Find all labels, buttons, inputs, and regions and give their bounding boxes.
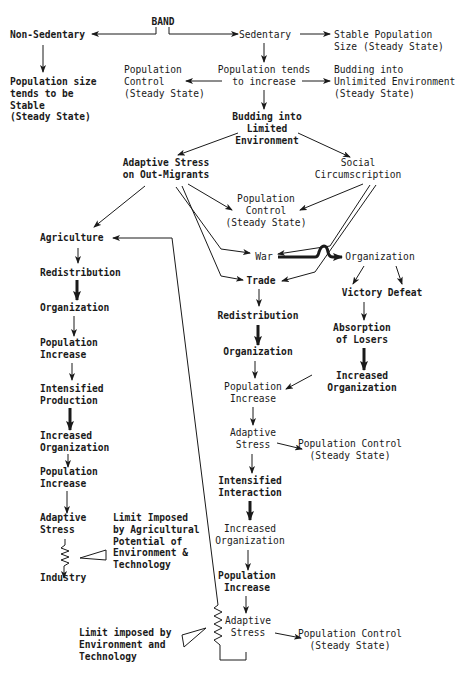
node-label-line: Redistribution xyxy=(218,310,299,321)
node-label-line: Social xyxy=(341,157,376,168)
node-label-line: Increased xyxy=(336,370,388,381)
node-label-line: Organization xyxy=(345,251,414,262)
edge-adaptive-control2 xyxy=(188,184,232,210)
node-label-line: tends to be xyxy=(10,88,74,99)
node-sedentary: Sedentary xyxy=(239,29,291,40)
node-label-line: Adaptive Stress xyxy=(123,157,210,168)
edge-adaptive-agri xyxy=(94,186,145,227)
node-label-line: Population xyxy=(124,64,182,75)
node-label-line: Sedentary xyxy=(239,29,291,40)
node-label-line: Organization xyxy=(223,346,293,357)
node-organization-l: Organization xyxy=(40,302,110,313)
node-label-line: Limit imposed by xyxy=(79,627,172,638)
node-label-line: Population xyxy=(40,337,98,348)
node-label-line: (Steady State) xyxy=(334,88,415,99)
node-label-line: Victory xyxy=(342,287,383,298)
edge-incorg-popinc xyxy=(286,375,312,389)
node-label-line: Population xyxy=(237,193,295,204)
node-pop-increase-l2: PopulationIncrease xyxy=(40,466,98,489)
node-label-line: Budding into xyxy=(232,111,302,122)
edge-limited-adaptive xyxy=(178,133,238,155)
edge-org-victory xyxy=(353,266,364,284)
node-label-line: (Steady State) xyxy=(310,640,391,651)
node-label-line: Stress xyxy=(231,627,266,638)
node-pop-increase-r1: PopulationIncrease xyxy=(224,381,282,404)
node-label-line: (Steady State) xyxy=(124,88,205,99)
node-label-line: Absorption xyxy=(333,322,391,333)
node-budding-limited: Budding intoLimitedEnvironment xyxy=(232,111,302,146)
node-label-line: Stress xyxy=(236,439,271,450)
node-adaptive-stress-l: AdaptiveStress xyxy=(40,512,86,535)
node-label-line: Stable xyxy=(10,100,45,111)
edge-feedback-agriculture xyxy=(113,238,246,660)
node-label-line: Increased xyxy=(224,523,276,534)
node-defeat: Defeat xyxy=(388,287,423,298)
node-label-line: (Steady State) xyxy=(226,217,307,228)
node-trade: Trade xyxy=(247,275,276,286)
node-label-line: Limited xyxy=(247,123,288,134)
node-industry: Industry xyxy=(40,572,86,583)
node-absorption: Absorptionof Losers xyxy=(333,322,391,345)
node-label-line: Population xyxy=(40,466,98,477)
flow-diagram: BANDNon-SedentaryPopulation sizetends to… xyxy=(0,0,468,673)
node-label-line: Production xyxy=(40,395,98,406)
edge-band-nonsedentary xyxy=(92,27,156,34)
node-label-line: Organization xyxy=(40,442,110,453)
node-pop-increase-r2: PopulationIncrease xyxy=(218,570,276,593)
node-label-line: Organization xyxy=(215,535,284,546)
node-label-line: Organization xyxy=(327,382,397,393)
node-label-line: Interaction xyxy=(218,487,282,498)
edge-social-trade xyxy=(282,185,376,281)
node-pop-stable: Population sizetends to beStable(Steady … xyxy=(10,76,97,122)
node-label-line: Increase xyxy=(230,393,276,404)
node-increased-org-l: IncreasedOrganization xyxy=(40,430,110,453)
node-pop-control-2: PopulationControl(Steady State) xyxy=(226,193,307,228)
node-increased-org-r: IncreasedOrganization xyxy=(215,523,284,546)
node-pop-control-3: Population Control(Steady State) xyxy=(298,438,402,461)
node-label-line: Population tends xyxy=(218,64,310,75)
zigzag-resistor-bottom xyxy=(214,605,222,645)
node-label-line: Technology xyxy=(113,559,171,570)
node-label-line: on Out-Migrants xyxy=(123,169,210,180)
node-label-line: Trade xyxy=(247,275,276,286)
node-pop-tends-increase: Population tendsto increase xyxy=(218,64,310,87)
node-adaptive-stress-out: Adaptive Stresson Out-Migrants xyxy=(123,157,210,180)
node-label-line: Population Control xyxy=(298,628,402,639)
node-label-line: Size (Steady State) xyxy=(334,41,444,52)
node-label-line: Redistribution xyxy=(40,267,121,278)
node-war: War xyxy=(255,251,273,262)
node-label-line: Stable Population xyxy=(334,29,432,40)
node-label-line: to increase xyxy=(232,76,296,87)
node-label-line: Environment & xyxy=(113,547,188,558)
node-increased-org-v: IncreasedOrganization xyxy=(327,370,397,393)
node-adaptive-stress-r2: AdaptiveStress xyxy=(225,615,271,638)
node-label-line: Adaptive xyxy=(230,427,276,438)
node-victory: Victory xyxy=(342,287,383,298)
node-label-line: BAND xyxy=(151,16,174,27)
node-label-line: Increase xyxy=(40,349,86,360)
node-label-line: Control xyxy=(124,76,164,87)
limit-wedge-bottom xyxy=(182,628,206,647)
node-label-line: Environment and xyxy=(79,639,166,650)
node-label-line: Adaptive xyxy=(40,512,86,523)
node-label-line: Intensified xyxy=(218,475,282,486)
edge-social-control2 xyxy=(300,184,363,210)
node-label-line: Stress xyxy=(40,524,75,535)
node-label-line: Increased xyxy=(40,430,92,441)
node-organization-war: Organization xyxy=(345,251,414,262)
node-label-line: Control xyxy=(246,205,286,216)
node-organization-r: Organization xyxy=(223,346,293,357)
node-label-line: Organization xyxy=(40,302,110,313)
node-intensified-prod: IntensifiedProduction xyxy=(40,383,104,406)
node-band: BAND xyxy=(151,16,174,27)
node-label-line: Unlimited Environment xyxy=(334,76,455,87)
node-intensified-int: IntensifiedInteraction xyxy=(218,475,282,498)
edge-org-defeat xyxy=(396,266,402,284)
node-label-line: Increase xyxy=(40,478,86,489)
node-label-line: Potential of xyxy=(113,536,183,547)
edge-band-sedentary xyxy=(169,27,238,34)
node-social-circ: SocialCircumscription xyxy=(315,157,402,180)
node-limit-env: Limit imposed byEnvironment andTechnolog… xyxy=(79,627,172,662)
node-label-line: Intensified xyxy=(40,383,104,394)
node-label-line: Agriculture xyxy=(40,232,104,243)
